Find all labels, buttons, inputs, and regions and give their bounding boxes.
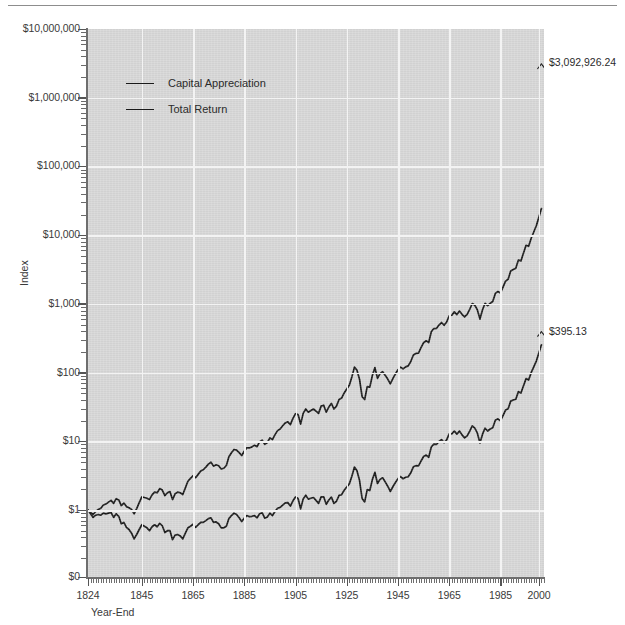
y-axis-tick-minor — [81, 250, 86, 251]
x-axis-tick-minor — [211, 578, 212, 583]
x-axis-tick-minor — [403, 578, 404, 583]
y-axis-tick-minor — [81, 134, 86, 135]
endpoint-label-total-return: $395.13 — [549, 325, 587, 337]
chart-figure: $10,000,000$1,000,000$100,000$10,000$1,0… — [0, 0, 625, 625]
x-axis-tick-minor — [511, 578, 512, 583]
y-axis-tick-minor — [81, 56, 86, 57]
x-axis-tick-minor — [477, 578, 478, 583]
x-axis-tick-label: 1985 — [489, 589, 512, 601]
x-axis-tick-minor — [385, 578, 386, 583]
x-axis-tick-minor — [329, 578, 330, 583]
x-axis-tick-minor — [252, 578, 253, 583]
x-axis-tick-major — [88, 578, 89, 586]
x-axis-tick-major — [296, 578, 297, 586]
x-axis-tick-minor — [354, 578, 355, 583]
y-axis-tick-minor — [81, 331, 86, 332]
x-axis-tick-minor — [378, 578, 379, 583]
x-axis-tick-minor — [498, 578, 499, 583]
y-axis-tick-minor — [81, 457, 86, 458]
y-axis-tick-minor — [81, 469, 86, 470]
x-axis-tick-minor — [344, 578, 345, 583]
x-axis-tick-minor — [249, 578, 250, 583]
x-axis-tick-minor — [196, 578, 197, 583]
x-axis-tick-minor — [152, 578, 153, 583]
x-axis-tick-minor — [326, 578, 327, 583]
x-axis-title: Year-End — [91, 606, 134, 618]
x-axis-tick-minor — [93, 578, 94, 583]
x-axis-tick-minor — [365, 578, 366, 583]
y-axis-tick-minor — [81, 50, 86, 51]
gridline-horizontal — [88, 166, 544, 168]
x-axis-tick-label: 1965 — [438, 589, 461, 601]
y-axis-tick-minor — [81, 525, 86, 526]
x-axis-tick-minor — [462, 578, 463, 583]
y-axis-tick-label: $1,000,000 — [28, 91, 80, 103]
x-axis-tick-label: 1905 — [284, 589, 307, 601]
x-axis-tick-minor — [216, 578, 217, 583]
x-axis-tick-minor — [447, 578, 448, 583]
x-axis-tick-minor — [393, 578, 394, 583]
x-axis-tick-minor — [460, 578, 461, 583]
x-axis-tick-minor — [426, 578, 427, 583]
y-axis-tick-major — [78, 29, 86, 31]
y-axis-tick-minor — [81, 173, 86, 174]
x-axis-tick-minor — [493, 578, 494, 583]
x-axis-tick-minor — [103, 578, 104, 583]
legend-item-label: Capital Appreciation — [168, 77, 266, 89]
x-axis-tick-minor — [490, 578, 491, 583]
x-axis-tick-minor — [226, 578, 227, 583]
x-axis-tick-minor — [214, 578, 215, 583]
x-axis-tick-minor — [431, 578, 432, 583]
x-axis-tick-minor — [406, 578, 407, 583]
y-axis-tick-minor — [81, 104, 86, 105]
x-axis-tick-minor — [98, 578, 99, 583]
x-axis-tick-minor — [541, 578, 542, 583]
legend-item-capital-appreciation: Capital Appreciation — [126, 70, 266, 96]
x-axis-tick-minor — [370, 578, 371, 583]
x-axis-tick-minor — [221, 578, 222, 583]
y-axis-tick-minor — [81, 521, 86, 522]
x-axis-tick-minor — [155, 578, 156, 583]
x-axis-tick-minor — [234, 578, 235, 583]
y-axis-tick-minor — [81, 36, 86, 37]
x-axis-tick-minor — [262, 578, 263, 583]
x-axis-tick-minor — [106, 578, 107, 583]
x-axis-tick-minor — [170, 578, 171, 583]
x-axis-tick-major — [142, 578, 143, 586]
x-axis-tick-minor — [480, 578, 481, 583]
x-axis-tick-minor — [116, 578, 117, 583]
x-axis-tick-minor — [411, 578, 412, 583]
y-axis-tick-major — [78, 372, 86, 374]
x-axis-tick-minor — [96, 578, 97, 583]
x-axis-tick-minor — [334, 578, 335, 583]
x-axis-tick-major — [347, 578, 348, 586]
x-axis-tick-major — [193, 578, 194, 586]
y-axis-tick-major — [78, 441, 86, 443]
y-axis-tick-label: $100 — [57, 366, 80, 378]
gridline-horizontal — [88, 510, 544, 512]
x-axis-tick-minor — [229, 578, 230, 583]
legend-item-total-return: Total Return — [126, 96, 266, 122]
x-axis-tick-minor — [267, 578, 268, 583]
y-axis-tick-minor — [81, 187, 86, 188]
x-axis-tick-minor — [485, 578, 486, 583]
y-axis-tick-minor — [81, 489, 86, 490]
x-axis-tick-minor — [232, 578, 233, 583]
x-axis-tick-minor — [416, 578, 417, 583]
x-axis-tick-minor — [109, 578, 110, 583]
x-axis-tick-minor — [162, 578, 163, 583]
y-axis-tick-major — [78, 97, 86, 99]
x-axis-tick-minor — [375, 578, 376, 583]
x-axis-tick-minor — [247, 578, 248, 583]
x-axis-tick-label: 1824 — [77, 589, 100, 601]
x-axis-tick-minor — [206, 578, 207, 583]
y-axis-tick-minor — [81, 477, 86, 478]
x-axis-tick-minor — [201, 578, 202, 583]
x-axis-tick-minor — [536, 578, 537, 583]
x-axis-tick-minor — [401, 578, 402, 583]
x-axis-tick-label: 1885 — [233, 589, 256, 601]
x-axis-tick-minor — [503, 578, 504, 583]
x-axis-tick-major — [539, 578, 540, 586]
x-axis-tick-minor — [132, 578, 133, 583]
x-axis-tick-minor — [467, 578, 468, 583]
